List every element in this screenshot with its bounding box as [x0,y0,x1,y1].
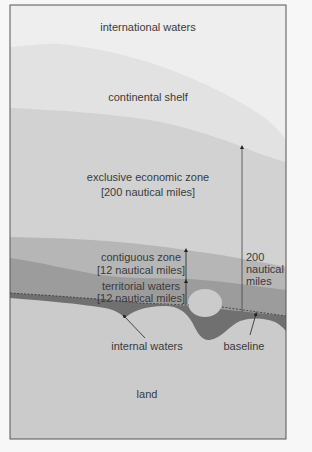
label-200-line3: miles [246,275,272,287]
label-eez-distance: [200 nautical miles] [101,186,195,198]
maritime-zones-diagram: international waters continental shelf e… [0,0,312,452]
island [188,289,222,317]
label-eez: exclusive economic zone [87,171,209,183]
label-contiguous-zone: contiguous zone [101,251,181,263]
label-internal-waters: internal waters [111,340,183,352]
label-international-waters: international waters [100,21,196,33]
label-continental-shelf: continental shelf [108,91,188,103]
label-contiguous-distance: [12 nautical miles] [97,264,185,276]
label-200-line1: 200 [246,251,264,263]
label-land: land [137,388,158,400]
label-territorial-waters: territorial waters [102,280,181,292]
label-200-line2: nautical [246,263,284,275]
label-baseline: baseline [224,340,265,352]
label-territorial-distance: [12 nautical miles] [97,292,185,304]
